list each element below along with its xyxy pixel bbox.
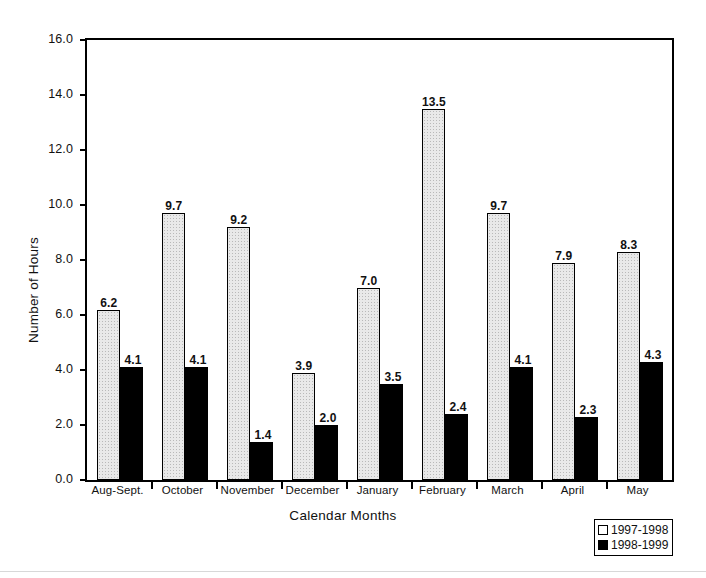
bar-1997-1998-April: 7.9: [552, 263, 575, 480]
legend-item-1997-1998: 1997-1998: [598, 522, 668, 537]
bar-1998-1999-May: 4.3: [640, 362, 663, 480]
x-axis-category-label: February: [410, 484, 475, 496]
plot-area: 16.014.012.010.08.06.04.02.00.06.24.19.7…: [85, 38, 674, 482]
y-axis-tick-label: 2.0: [55, 417, 73, 431]
x-axis-category-label: Aug-Sept.: [85, 484, 150, 496]
bar-value-label: 9.2: [230, 213, 247, 227]
y-axis-tick-mark: [80, 204, 87, 206]
x-axis-category-label: January: [345, 484, 410, 496]
bar-value-label: 4.1: [190, 353, 207, 367]
black-square-icon: [598, 540, 608, 550]
y-axis-tick-mark: [80, 259, 87, 261]
x-axis-category-label: November: [215, 484, 280, 496]
bar-value-label: 2.0: [320, 411, 337, 425]
bar-value-label: 7.0: [360, 274, 377, 288]
bar-value-label: 13.5: [422, 95, 446, 109]
y-axis-tick-mark: [80, 39, 87, 41]
bar-1997-1998-October: 9.7: [162, 213, 185, 480]
bar-1997-1998-May: 8.3: [617, 252, 640, 480]
y-axis-tick-mark: [80, 369, 87, 371]
bar-1997-1998-February: 13.5: [422, 109, 445, 480]
y-axis-tick-mark: [80, 314, 87, 316]
y-axis-tick-label: 8.0: [55, 252, 73, 266]
bar-value-label: 7.9: [555, 249, 572, 263]
bar-value-label: 4.1: [125, 353, 142, 367]
y-axis-tick-label: 16.0: [48, 32, 73, 46]
y-axis-title: Number of Hours: [12, 0, 27, 190]
y-axis-title-text: Number of Hours: [26, 190, 41, 390]
bar-value-label: 3.9: [295, 359, 312, 373]
bar-value-label: 3.5: [385, 370, 402, 384]
legend-label: 1998-1999: [611, 538, 668, 552]
bar-1998-1999-February: 2.4: [445, 414, 468, 480]
y-axis-tick-mark: [80, 424, 87, 426]
bar-1997-1998-November: 9.2: [227, 227, 250, 480]
bar-1998-1999-March: 4.1: [510, 367, 533, 480]
y-axis-tick-label: 4.0: [55, 362, 73, 376]
x-axis-category-label: October: [150, 484, 215, 496]
bar-value-label: 2.4: [450, 400, 467, 414]
x-axis-category-label: March: [475, 484, 540, 496]
bar-value-label: 2.3: [580, 403, 597, 417]
y-axis-tick-label: 14.0: [48, 87, 73, 101]
bar-value-label: 8.3: [620, 238, 637, 252]
chart-page: Number of Hours 16.014.012.010.08.06.04.…: [0, 0, 706, 578]
x-axis-title-text: Calendar Months: [289, 508, 396, 523]
y-axis-tick-label: 6.0: [55, 307, 73, 321]
bar-value-label: 9.7: [490, 199, 507, 213]
legend: 1997-1998 1998-1999: [594, 519, 673, 556]
bar-1998-1999-October: 4.1: [185, 367, 208, 480]
x-axis-category-label: April: [540, 484, 605, 496]
bar-1997-1998-December: 3.9: [292, 373, 315, 480]
bar-1998-1999-January: 3.5: [380, 384, 403, 480]
bar-value-label: 4.3: [645, 348, 662, 362]
y-axis-tick-mark: [80, 149, 87, 151]
bar-value-label: 1.4: [255, 428, 272, 442]
y-axis-tick-mark: [80, 479, 87, 481]
bar-1997-1998-Aug-Sept.: 6.2: [97, 310, 120, 481]
x-axis-category-label: December: [280, 484, 345, 496]
y-axis-tick-label: 12.0: [48, 142, 73, 156]
plot-inner: 16.014.012.010.08.06.04.02.00.06.24.19.7…: [87, 40, 672, 480]
bar-1998-1999-November: 1.4: [250, 442, 273, 481]
bar-value-label: 9.7: [165, 199, 182, 213]
legend-label: 1997-1998: [611, 523, 668, 537]
light-square-icon: [598, 525, 608, 535]
bar-1998-1999-December: 2.0: [315, 425, 338, 480]
bar-1998-1999-April: 2.3: [575, 417, 598, 480]
bar-1997-1998-March: 9.7: [487, 213, 510, 480]
legend-item-1998-1999: 1998-1999: [598, 537, 668, 552]
scan-artifact: [0, 571, 706, 572]
y-axis-tick-mark: [80, 94, 87, 96]
bar-1997-1998-January: 7.0: [357, 288, 380, 481]
x-axis-category-label: May: [605, 484, 670, 496]
y-axis-tick-label: 0.0: [55, 472, 73, 486]
bar-1998-1999-Aug-Sept.: 4.1: [120, 367, 143, 480]
bar-value-label: 6.2: [100, 296, 117, 310]
bar-value-label: 4.1: [515, 353, 532, 367]
y-axis-tick-label: 10.0: [48, 197, 73, 211]
